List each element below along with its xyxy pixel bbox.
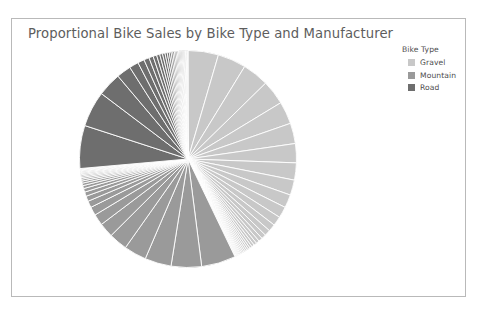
legend-item-label: Road xyxy=(420,83,439,92)
legend-item-gravel[interactable]: Gravel xyxy=(402,58,472,67)
clipped-caption xyxy=(0,300,485,310)
legend-item-list: GravelMountainRoad xyxy=(402,58,472,92)
legend-item-road[interactable]: Road xyxy=(402,83,472,92)
pie-slice-group xyxy=(79,50,296,267)
legend-swatch-icon xyxy=(408,59,415,66)
legend-item-mountain[interactable]: Mountain xyxy=(402,71,472,80)
chart-legend: Bike Type GravelMountainRoad xyxy=(402,45,472,96)
pie-slice[interactable] xyxy=(187,50,188,159)
legend-item-label: Mountain xyxy=(420,71,456,80)
legend-item-label: Gravel xyxy=(420,58,446,67)
pie-chart[interactable] xyxy=(78,49,298,269)
chart-frame: Proportional Bike Sales by Bike Type and… xyxy=(11,18,466,297)
plot-area xyxy=(12,19,467,298)
legend-swatch-icon xyxy=(408,72,415,79)
legend-swatch-icon xyxy=(408,84,415,91)
legend-title: Bike Type xyxy=(402,45,472,54)
